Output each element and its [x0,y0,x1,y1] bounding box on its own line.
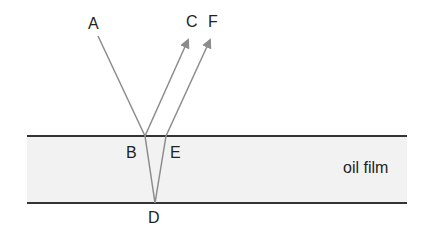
ray-BC [145,40,188,136]
ray-EF [166,40,210,136]
label-E: E [170,145,181,161]
label-oil-film: oil film [343,160,388,176]
oil-film-diagram [0,0,430,234]
label-F: F [208,14,218,30]
label-B: B [126,145,137,161]
label-C: C [186,14,198,30]
label-A: A [88,16,99,32]
ray-AB [98,36,145,136]
label-D: D [148,210,160,226]
